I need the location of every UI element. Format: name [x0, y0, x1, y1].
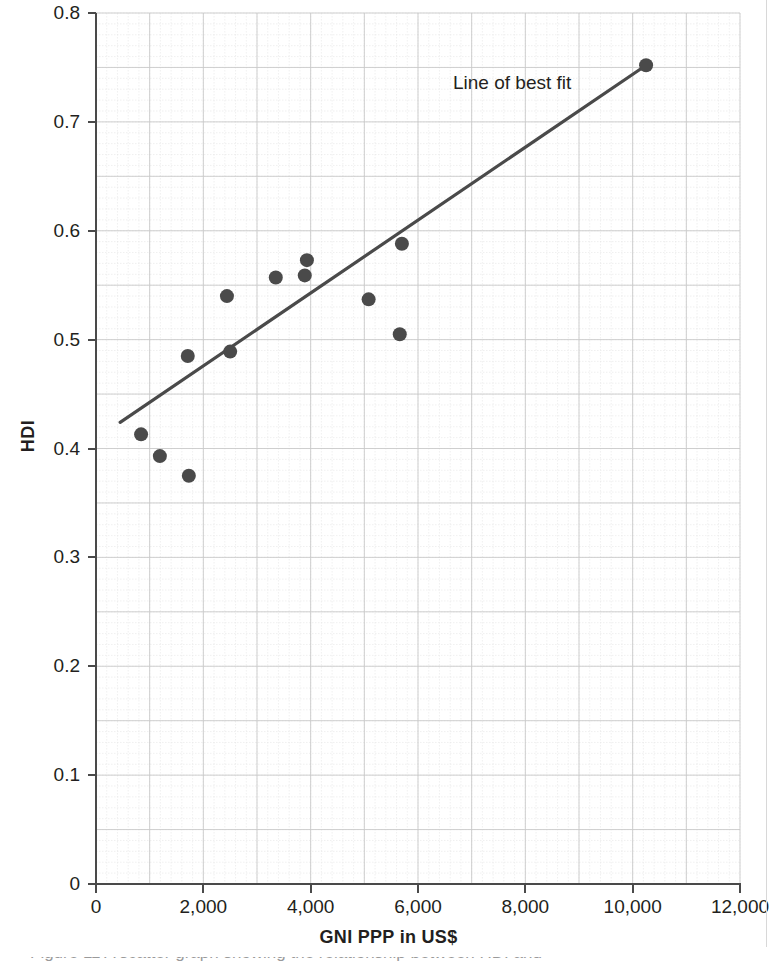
y-tick-label: 0.3: [54, 546, 80, 568]
data-point: [134, 427, 148, 441]
data-point: [223, 345, 237, 359]
x-tick-mark: [202, 885, 204, 893]
y-tick-label: 0: [69, 873, 80, 895]
y-tick-mark: [88, 556, 96, 558]
data-point: [269, 271, 283, 285]
y-tick-label: 0.6: [54, 220, 80, 242]
figure-caption-strip: Figure 11 A scatter graph showing the re…: [0, 957, 777, 967]
y-axis-title: HDI: [18, 420, 39, 453]
x-tick-mark: [739, 885, 741, 893]
figure-caption: Figure 11 A scatter graph showing the re…: [30, 957, 542, 963]
y-tick-label: 0.5: [54, 329, 80, 351]
data-layer: [96, 13, 740, 884]
y-tick-label: 0.8: [54, 2, 80, 24]
data-point: [181, 349, 195, 363]
y-tick-mark: [88, 665, 96, 667]
data-point: [182, 469, 196, 483]
x-tick-label: 6,000: [394, 896, 442, 918]
y-tick-label: 0.2: [54, 655, 80, 677]
x-tick-label: 4,000: [287, 896, 335, 918]
y-tick-mark: [88, 448, 96, 450]
y-tick-mark: [88, 339, 96, 341]
x-tick-label: 8,000: [502, 896, 550, 918]
x-tick-mark: [95, 885, 97, 893]
data-point: [362, 292, 376, 306]
plot-area: [96, 13, 740, 884]
x-tick-mark: [632, 885, 634, 893]
y-tick-mark: [88, 12, 96, 14]
x-tick-label: 12,000: [711, 896, 769, 918]
data-point: [395, 237, 409, 251]
line-of-best-fit-label: Line of best fit: [453, 72, 571, 94]
y-tick-label: 0.1: [54, 764, 80, 786]
x-axis-title: GNI PPP in US$: [0, 927, 777, 948]
y-tick-mark: [88, 230, 96, 232]
y-tick-label: 0.4: [54, 438, 80, 460]
scatter-chart-figure: 00.10.20.30.40.50.60.70.8 02,0004,0006,0…: [0, 0, 777, 967]
x-tick-label: 10,000: [604, 896, 662, 918]
data-point: [393, 327, 407, 341]
x-tick-mark: [417, 885, 419, 893]
data-point: [153, 449, 167, 463]
data-point: [639, 58, 653, 72]
data-point: [298, 268, 312, 282]
y-tick-mark: [88, 121, 96, 123]
page-right-rule: [766, 0, 767, 947]
data-point: [220, 289, 234, 303]
x-tick-label: 2,000: [180, 896, 228, 918]
x-tick-label: 0: [91, 896, 102, 918]
y-tick-label: 0.7: [54, 111, 80, 133]
x-tick-mark: [310, 885, 312, 893]
data-point: [300, 253, 314, 267]
y-tick-mark: [88, 774, 96, 776]
x-tick-mark: [524, 885, 526, 893]
